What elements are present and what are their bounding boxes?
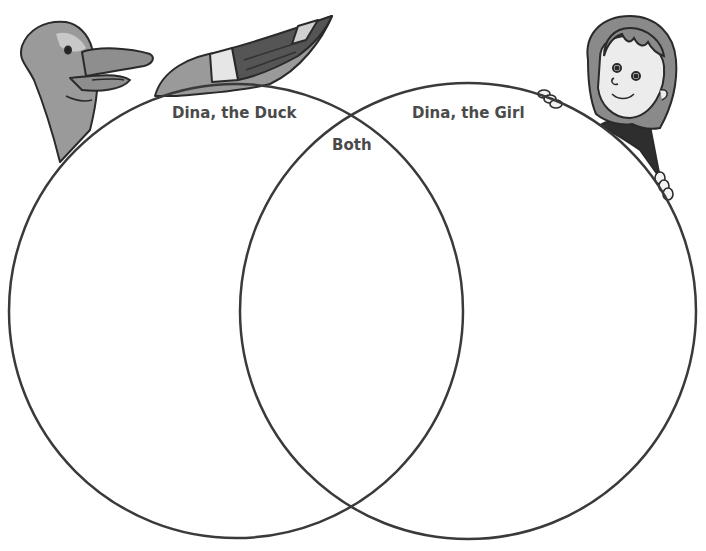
left-circle	[9, 84, 463, 538]
venn-diagram: Dina, the Duck Dina, the Girl Both	[0, 0, 706, 551]
girl-illustration	[538, 16, 676, 200]
right-circle	[240, 83, 696, 539]
intersection-label: Both	[332, 136, 372, 154]
right-set-label: Dina, the Girl	[412, 104, 525, 122]
left-set-label: Dina, the Duck	[172, 104, 297, 122]
